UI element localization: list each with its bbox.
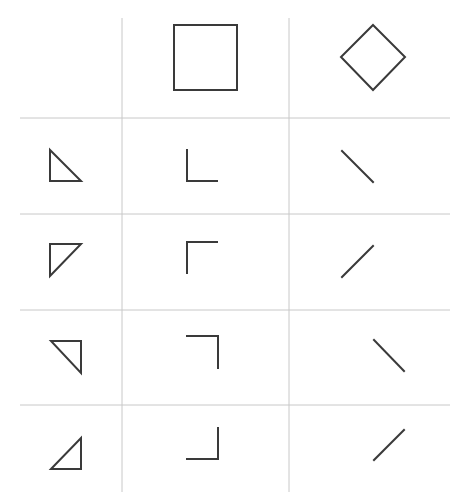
triangle-bottom-right-shape xyxy=(51,438,81,469)
diagonal-slash-shape xyxy=(374,430,404,460)
triangle-top-right-shape xyxy=(51,341,81,373)
diagonal-backslash-shape xyxy=(342,151,373,182)
square-shape xyxy=(174,25,237,90)
corner-bottom-left-shape xyxy=(187,150,217,181)
corner-top-right-shape xyxy=(187,336,218,368)
diagonal-slash-shape xyxy=(342,246,373,277)
triangle-bottom-left-shape xyxy=(50,150,81,181)
corner-top-left-shape xyxy=(187,242,217,273)
shape-decomposition-grid xyxy=(0,0,463,498)
diagonal-backslash-shape xyxy=(374,340,404,371)
corner-bottom-right-shape xyxy=(187,428,218,459)
diamond-shape xyxy=(341,25,405,90)
triangle-top-left-shape xyxy=(50,244,81,276)
